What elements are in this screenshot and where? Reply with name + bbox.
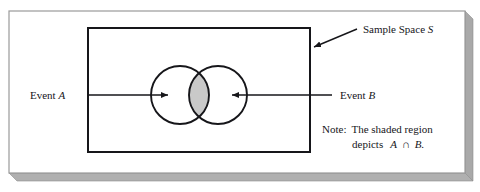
note-line-1: Note:The shaded region — [322, 123, 433, 135]
figure-container: Sample Space S Event A Event B Note:The … — [0, 0, 480, 192]
venn-diagram-figure: Sample Space S Event A Event B Note:The … — [0, 0, 480, 192]
event-a-label: Event A — [30, 89, 65, 101]
sample-space-label: Sample Space S — [363, 23, 434, 35]
event-b-label: Event B — [340, 89, 375, 101]
